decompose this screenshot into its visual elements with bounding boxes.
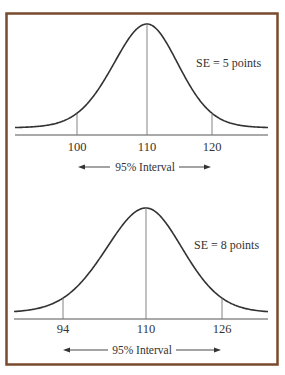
- interval-arrow: 95% Interval: [63, 344, 221, 356]
- tick-label-high: 120: [203, 140, 222, 154]
- arrow-right-icon: [214, 348, 221, 353]
- tick-label-mean: 110: [137, 322, 155, 336]
- panel-se-5: SE = 5 points 100 110 120 95% Interval: [15, 24, 268, 173]
- tick-label-low: 100: [68, 140, 87, 154]
- interval-arrow: 95% Interval: [78, 161, 211, 173]
- arrow-left-icon: [78, 165, 85, 170]
- interval-label: 95% Interval: [112, 344, 172, 356]
- se-annotation: SE = 8 points: [194, 238, 259, 252]
- panel-se-8: SE = 8 points 94 110 126 95% Interval: [14, 208, 268, 356]
- tick-label-low: 94: [57, 322, 70, 336]
- arrow-left-icon: [63, 348, 70, 353]
- normal-curve: [15, 24, 268, 128]
- normal-curve: [14, 208, 268, 312]
- tick-label-high: 126: [213, 322, 232, 336]
- interval-label: 95% Interval: [115, 161, 175, 173]
- sampling-distribution-figure: SE = 5 points 100 110 120 95% Interval S…: [0, 0, 285, 375]
- arrow-right-icon: [204, 165, 211, 170]
- se-annotation: SE = 5 points: [196, 56, 261, 70]
- tick-label-mean: 110: [138, 140, 156, 154]
